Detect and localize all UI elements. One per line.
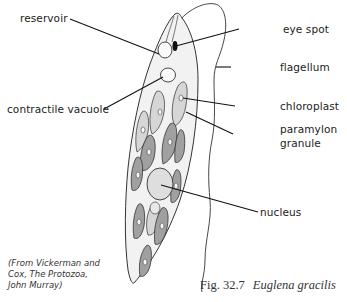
contractile-vacuole-icon <box>161 68 176 82</box>
image-credit: (From Vickerman and Cox, The Protozoa, J… <box>8 258 100 291</box>
label-eye-spot: eye spot <box>283 23 329 35</box>
euglena-illustration <box>0 0 347 302</box>
label-chloroplast: chloroplast <box>280 100 339 112</box>
euglena-diagram: reservoir eye spot flagellum contractile… <box>0 0 347 302</box>
label-paramylon-granule-1: paramylon <box>280 123 337 135</box>
label-paramylon-granule-2: granule <box>280 137 321 149</box>
reservoir-icon <box>158 42 172 58</box>
label-contractile-vacuole: contractile vacuole <box>7 103 109 115</box>
label-reservoir: reservoir <box>20 12 68 24</box>
caption-number: Fig. 32.7 <box>200 278 245 292</box>
label-nucleus: nucleus <box>260 206 301 218</box>
label-flagellum: flagellum <box>280 61 330 73</box>
caption-species: Euglena gracilis <box>253 278 336 292</box>
figure-caption: Fig. 32.7Euglena gracilis <box>200 278 336 293</box>
nucleus-icon <box>147 168 173 200</box>
